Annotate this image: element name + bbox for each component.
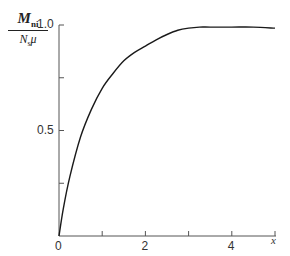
y-tick-label: 0.5 (37, 123, 54, 137)
x-tick-label: 0 (55, 239, 62, 253)
y-label-denominator: Nsμ (8, 32, 48, 48)
x-tick-label: x (271, 234, 276, 246)
data-curve (59, 27, 275, 236)
x-tick-label: 4 (228, 239, 235, 253)
y-tick-label: 1.0 (37, 17, 54, 31)
x-tick-label: 2 (141, 239, 148, 253)
axes (59, 25, 276, 236)
